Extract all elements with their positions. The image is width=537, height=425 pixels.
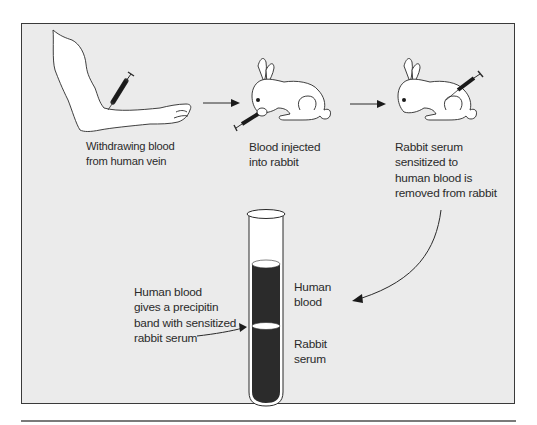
- syringe-icon: [234, 114, 258, 131]
- curved-arrow-icon: [352, 210, 441, 303]
- label-human-blood: Human blood: [294, 280, 331, 311]
- caption-blood-injected: Blood injected into rabbit: [249, 140, 320, 171]
- rabbit-icon: [252, 59, 331, 120]
- syringe-icon: [108, 72, 134, 110]
- arrow-right-icon: [203, 99, 240, 107]
- diagram-artwork: [0, 0, 537, 425]
- caption-serum-removed: Rabbit serum sensitized to human blood i…: [395, 140, 497, 201]
- rabbit-icon: [398, 59, 477, 120]
- arrow-right-icon: [350, 100, 386, 108]
- precipitin-band: [252, 323, 280, 330]
- label-rabbit-serum: Rabbit serum: [294, 337, 327, 368]
- test-tube-icon: [247, 210, 285, 407]
- human-arm-icon: [53, 30, 191, 132]
- caption-withdrawing-blood: Withdrawing blood from human vein: [86, 139, 175, 168]
- label-precipitin-band: Human blood gives a precipitin band with…: [134, 285, 236, 346]
